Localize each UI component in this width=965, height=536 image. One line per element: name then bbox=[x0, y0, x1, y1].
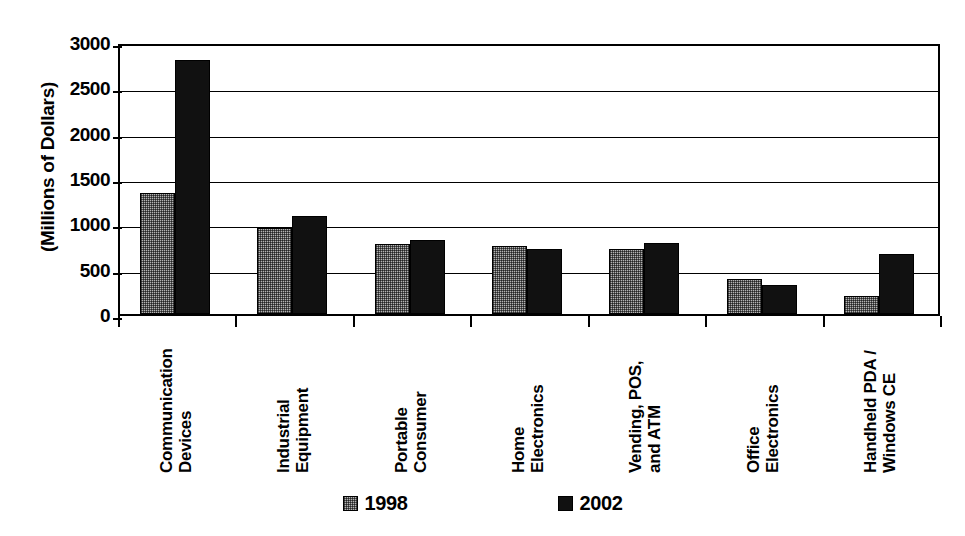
bar-1998-6 bbox=[844, 296, 879, 314]
y-axis-tick bbox=[113, 182, 122, 184]
category-label: Home Electronics bbox=[509, 385, 547, 473]
x-axis-tick bbox=[588, 316, 590, 327]
x-axis-tick bbox=[705, 316, 707, 327]
gridline bbox=[120, 91, 938, 92]
y-axis-tick-label: 500 bbox=[18, 260, 110, 282]
chart-legend: 19982002 bbox=[0, 486, 965, 520]
bar-2002-6 bbox=[879, 254, 914, 314]
category-label: Handheld PDA / Windows CE bbox=[861, 350, 899, 473]
bar-1998-3 bbox=[492, 246, 527, 314]
y-axis-tick-label: 2000 bbox=[18, 124, 110, 146]
legend-label: 1998 bbox=[365, 492, 408, 515]
gray-stipple-swatch bbox=[343, 496, 358, 511]
x-axis-tick bbox=[118, 316, 120, 327]
y-axis-tick-label: 3000 bbox=[18, 33, 110, 55]
y-axis-tick-label: 1500 bbox=[18, 169, 110, 191]
category-label: Portable Consumer bbox=[392, 391, 430, 473]
bar-1998-5 bbox=[727, 279, 762, 314]
bar-2002-0 bbox=[175, 60, 210, 314]
y-axis-tick bbox=[113, 273, 122, 275]
gridline bbox=[120, 137, 938, 138]
black-swatch bbox=[558, 496, 573, 511]
bar-2002-4 bbox=[644, 243, 679, 314]
x-axis-tick bbox=[823, 316, 825, 327]
y-axis-tick bbox=[113, 137, 122, 139]
bar-1998-2 bbox=[375, 244, 410, 314]
legend-item-2002[interactable]: 2002 bbox=[558, 492, 623, 515]
y-axis-tick-labels: 300025002000150010005000 bbox=[10, 44, 110, 316]
gridline bbox=[120, 227, 938, 228]
category-label: Communication Devices bbox=[157, 348, 195, 473]
y-axis-tick-label: 2500 bbox=[18, 78, 110, 100]
category-label: Industrial Equipment bbox=[274, 388, 312, 473]
bar-2002-2 bbox=[410, 240, 445, 314]
bar-1998-0 bbox=[140, 193, 175, 314]
y-axis-tick bbox=[113, 227, 122, 229]
y-axis-tick-label: 1000 bbox=[18, 214, 110, 236]
y-axis-tick bbox=[113, 46, 122, 48]
bar-2002-3 bbox=[527, 249, 562, 314]
y-axis-tick bbox=[113, 91, 122, 93]
bar-2002-5 bbox=[762, 285, 797, 314]
category-label: Vending, POS, and ATM bbox=[626, 361, 664, 473]
bar-chart: (Millions of Dollars) 300025002000150010… bbox=[0, 0, 965, 536]
legend-item-1998[interactable]: 1998 bbox=[343, 492, 408, 515]
bar-1998-4 bbox=[609, 249, 644, 314]
gridline bbox=[120, 182, 938, 183]
legend-label: 2002 bbox=[580, 492, 623, 515]
bar-1998-1 bbox=[257, 228, 292, 314]
y-axis-tick-label: 0 bbox=[18, 305, 110, 327]
x-axis-tick bbox=[470, 316, 472, 327]
plot-area bbox=[118, 44, 940, 316]
x-axis-tick bbox=[235, 316, 237, 327]
x-axis-tick bbox=[353, 316, 355, 327]
x-axis-tick bbox=[940, 316, 942, 327]
category-label: Office Electronics bbox=[744, 385, 782, 473]
bar-2002-1 bbox=[292, 216, 327, 314]
